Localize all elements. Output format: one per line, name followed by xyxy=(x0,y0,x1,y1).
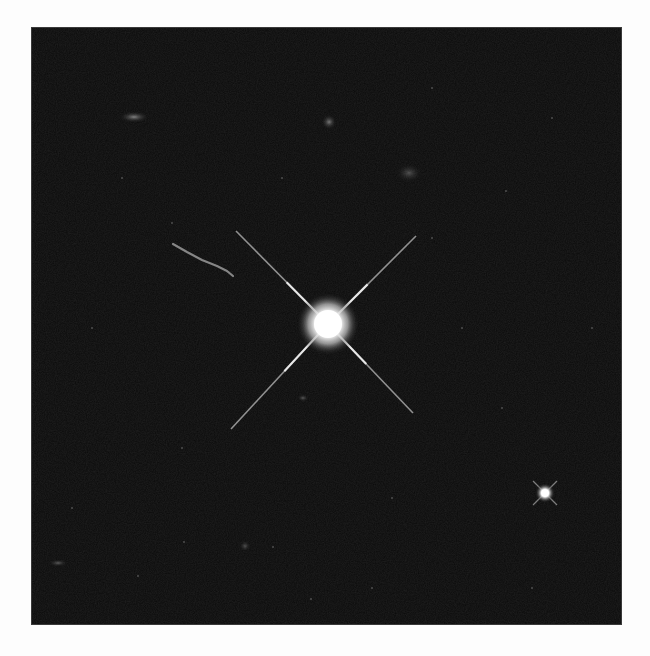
quasar-core xyxy=(314,310,342,338)
galaxy xyxy=(297,394,309,402)
galaxy xyxy=(239,540,251,552)
faint-star xyxy=(501,407,503,409)
faint-star xyxy=(121,177,123,179)
faint-star xyxy=(183,541,185,543)
faint-star xyxy=(137,575,139,577)
astronomical-image xyxy=(31,27,622,625)
faint-star xyxy=(591,327,593,329)
faint-star xyxy=(391,497,393,499)
bright-star xyxy=(533,481,557,505)
faint-star xyxy=(171,222,173,224)
faint-star xyxy=(181,447,183,449)
faint-star xyxy=(431,87,433,89)
faint-star xyxy=(371,587,373,589)
faint-star xyxy=(531,587,533,589)
faint-star xyxy=(281,177,283,179)
faint-star xyxy=(91,327,93,329)
galaxy xyxy=(321,114,337,130)
faint-star xyxy=(310,598,312,600)
faint-star xyxy=(431,237,433,239)
faint-star xyxy=(272,546,274,548)
galaxy xyxy=(118,111,150,123)
faint-star xyxy=(461,327,463,329)
faint-star xyxy=(71,507,73,509)
galaxy xyxy=(395,163,423,183)
faint-star xyxy=(551,117,553,119)
faint-star xyxy=(505,190,507,192)
galaxy xyxy=(48,559,68,567)
quasar-image xyxy=(32,28,622,625)
